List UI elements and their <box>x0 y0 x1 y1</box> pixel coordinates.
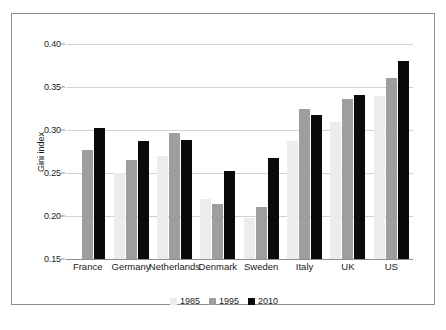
legend-item: 1995 <box>209 296 239 306</box>
bar <box>114 173 125 259</box>
y-axis-tick-label: 0.20 <box>44 211 61 221</box>
bar <box>82 150 93 259</box>
legend-swatch-1995 <box>209 298 216 305</box>
y-axis-tick-label: 0.30 <box>44 125 61 135</box>
bar <box>311 115 322 259</box>
bar <box>138 141 149 259</box>
y-axis-title: Gini index <box>34 44 48 259</box>
bar <box>244 218 255 259</box>
legend-item: 2010 <box>248 296 278 306</box>
bar <box>224 171 235 259</box>
bar-group <box>326 44 369 259</box>
bar-group <box>196 44 239 259</box>
bar-group <box>370 44 413 259</box>
bar <box>200 199 211 259</box>
y-axis-tick-label: 0.35 <box>44 82 61 92</box>
x-axis-tick-label: France <box>73 261 103 272</box>
legend-label: 2010 <box>258 296 278 306</box>
bar <box>181 140 192 259</box>
bars-layer <box>66 44 413 259</box>
legend-label: 1995 <box>219 296 239 306</box>
bar <box>330 122 341 259</box>
x-axis-tick-labels: FranceGermanyNetherlandsDenmarkSwedenIta… <box>66 261 413 277</box>
y-axis-tick-mark <box>61 173 65 174</box>
y-axis-tick-mark <box>61 259 65 260</box>
legend-swatch-2010 <box>248 298 255 305</box>
bar <box>398 61 409 259</box>
y-axis-tick-label: 0.25 <box>44 168 61 178</box>
bar <box>299 109 310 260</box>
bar-group <box>153 44 196 259</box>
y-axis-tick-label: 0.15 <box>44 254 61 264</box>
bar-group <box>66 44 109 259</box>
chart-figure-frame: Gini index 0.400.350.300.250.200.15 Fran… <box>11 13 435 305</box>
bar <box>169 133 180 259</box>
x-axis-tick-label: Sweden <box>244 261 278 272</box>
legend-swatch-1985 <box>170 298 177 305</box>
bar <box>212 204 223 259</box>
bar <box>354 95 365 259</box>
x-axis-tick-label: Italy <box>296 261 313 272</box>
x-axis-tick-label: Denmark <box>199 261 238 272</box>
y-axis-tick-mark <box>61 44 65 45</box>
y-axis-tick-mark <box>61 87 65 88</box>
legend-label: 1985 <box>180 296 200 306</box>
x-axis-tick-label: Netherlands <box>149 261 200 272</box>
bar-group <box>109 44 152 259</box>
x-axis-tick-label: Germany <box>112 261 151 272</box>
chart-legend: 198519952010 <box>12 296 436 306</box>
plot-area: 0.400.350.300.250.200.15 <box>66 44 413 259</box>
bar-group <box>283 44 326 259</box>
bar <box>342 99 353 259</box>
y-axis-tick-label: 0.40 <box>44 39 61 49</box>
x-axis-tick-label: US <box>385 261 398 272</box>
legend-item: 1985 <box>170 296 200 306</box>
bar <box>126 160 137 259</box>
y-axis-tick-mark <box>61 130 65 131</box>
y-axis-tick-mark <box>61 216 65 217</box>
bar <box>268 158 279 259</box>
bar <box>94 128 105 259</box>
bar <box>256 207 267 259</box>
bar-group <box>240 44 283 259</box>
bar <box>386 78 397 259</box>
figure-caption <box>11 312 435 326</box>
bar <box>374 96 385 259</box>
bar <box>157 156 168 259</box>
x-axis-tick-label: UK <box>341 261 354 272</box>
y-axis-title-label: Gini index <box>36 131 46 171</box>
bar <box>287 141 298 259</box>
gridline <box>66 259 413 260</box>
